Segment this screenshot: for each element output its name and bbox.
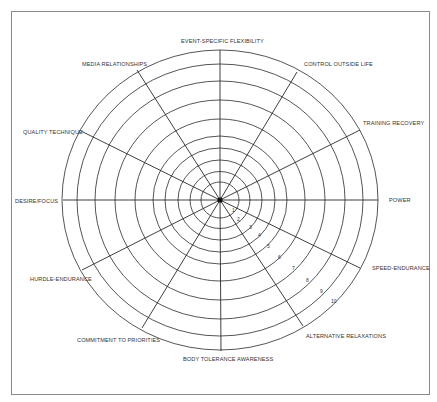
label-event-specific-flexibility: EVENT-SPECIFIC FLEXIBILITY bbox=[181, 38, 264, 44]
spoke-8 bbox=[142, 200, 220, 328]
label-quality-technique: QUALITY TECHNIQUE bbox=[23, 129, 83, 135]
label-power: POWER bbox=[389, 197, 411, 203]
label-media-relationships: MEDIA RELATIONSHIPS bbox=[82, 61, 147, 67]
ring-number-3: 3 bbox=[249, 225, 252, 230]
spoke-7 bbox=[220, 200, 221, 351]
label-desire-focus: DESIRE/FOCUS bbox=[15, 198, 58, 204]
label-training-recovery: TRAINING RECOVERY bbox=[363, 120, 424, 126]
ring-number-9: 9 bbox=[320, 289, 323, 294]
center-hub bbox=[217, 197, 222, 202]
spoke-12 bbox=[137, 70, 220, 200]
ring-number-10: 10 bbox=[331, 299, 337, 304]
label-body-tolerance-awareness: BODY TOLERANCE AWARENESS bbox=[183, 356, 273, 362]
ring-number-1: 1 bbox=[232, 208, 235, 213]
spoke-5 bbox=[220, 200, 360, 268]
ring-number-2: 2 bbox=[237, 217, 240, 222]
label-alternative-relaxations: ALTERNATIVE RELAXATIONS bbox=[306, 333, 386, 339]
label-control-outside-life: CONTROL OUTSIDE LIFE bbox=[304, 61, 373, 67]
label-hurdle-endurance: HURDLE-ENDURANCE bbox=[30, 276, 92, 282]
ring-number-6: 6 bbox=[278, 255, 281, 260]
label-speed-endurance: SPEED-ENDURANCE bbox=[372, 265, 430, 271]
ring-number-8: 8 bbox=[306, 278, 309, 283]
ring-number-4: 4 bbox=[258, 233, 261, 238]
ring-number-7: 7 bbox=[292, 266, 295, 271]
label-commitment-to-priorities: COMMITMENT TO PRIORITIES bbox=[77, 337, 160, 343]
ring-number-5: 5 bbox=[267, 244, 270, 249]
